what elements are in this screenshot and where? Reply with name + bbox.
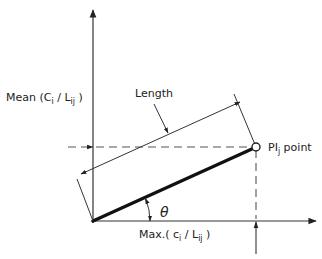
- theta-label: θ: [160, 204, 169, 220]
- extension-line-point: [234, 94, 256, 147]
- length-dimension-line: [81, 102, 240, 174]
- pi-point-label: PIj point: [268, 141, 312, 156]
- extension-line-origin: [77, 179, 93, 221]
- theta-arc: [146, 199, 151, 222]
- length-label: Length: [135, 87, 173, 100]
- pi-point-diagram: Mean (Ci / Lij ) Length PIj point θ Max.…: [0, 0, 322, 259]
- x-axis-label: Max.( ci / Lij ): [139, 228, 210, 243]
- y-axis-label: Mean (Ci / Lij ): [6, 91, 83, 106]
- pi-point-marker: [252, 143, 260, 151]
- length-leader-line: [154, 104, 168, 133]
- pi-vector-line: [93, 149, 253, 222]
